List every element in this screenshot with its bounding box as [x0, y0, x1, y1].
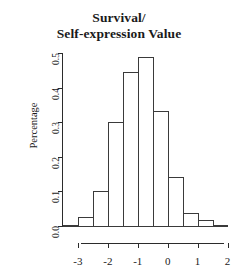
histogram-bar	[123, 72, 139, 226]
x-axis-tick-label: -2	[98, 255, 118, 267]
x-axis-line	[81, 243, 224, 244]
x-axis-tick-label: -1	[128, 255, 148, 267]
bar-baseline	[63, 226, 228, 227]
histogram-bars	[0, 0, 238, 280]
histogram-bar	[78, 217, 94, 226]
histogram-figure: Survival/ Self-expression Value Percenta…	[0, 0, 238, 280]
x-axis-tick	[228, 243, 229, 248]
x-axis-tick	[108, 243, 109, 248]
x-axis-tick	[78, 243, 79, 248]
x-axis-tick	[198, 243, 199, 248]
x-axis-tick	[138, 243, 139, 248]
x-axis-tick-label: -3	[68, 255, 88, 267]
x-axis-tick	[168, 243, 169, 248]
histogram-bar	[183, 213, 199, 226]
x-axis-tick-label: 2	[218, 255, 238, 267]
histogram-bar	[138, 57, 154, 226]
x-axis-tick-label: 1	[188, 255, 208, 267]
histogram-bar	[153, 111, 169, 226]
histogram-bar	[108, 122, 124, 226]
histogram-bar	[168, 177, 184, 226]
x-axis-tick-label: 0	[158, 255, 178, 267]
histogram-bar	[93, 191, 109, 226]
